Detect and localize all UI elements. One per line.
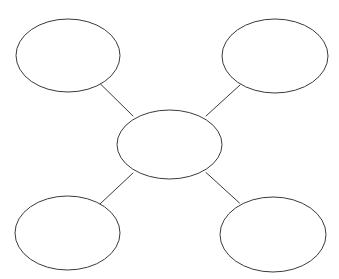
diagram-canvas: [0, 0, 339, 279]
top-right-node[interactable]: [222, 19, 328, 93]
bottom-right-node-shape[interactable]: [220, 197, 326, 272]
center-node-shape[interactable]: [117, 110, 222, 179]
connector-center-to-top-left[interactable]: [101, 84, 134, 116]
connector-center-to-top-right[interactable]: [206, 85, 240, 116]
bottom-right-node[interactable]: [220, 197, 326, 272]
top-right-node-shape[interactable]: [222, 19, 328, 93]
top-left-node-shape[interactable]: [16, 19, 120, 92]
connector-center-to-bottom-right[interactable]: [206, 173, 240, 204]
concept-map-svg: [0, 0, 339, 279]
center-node[interactable]: [117, 110, 222, 179]
bottom-left-node-shape[interactable]: [15, 196, 120, 270]
connector-center-to-bottom-left[interactable]: [100, 173, 133, 204]
bottom-left-node[interactable]: [15, 196, 120, 270]
top-left-node[interactable]: [16, 19, 120, 92]
